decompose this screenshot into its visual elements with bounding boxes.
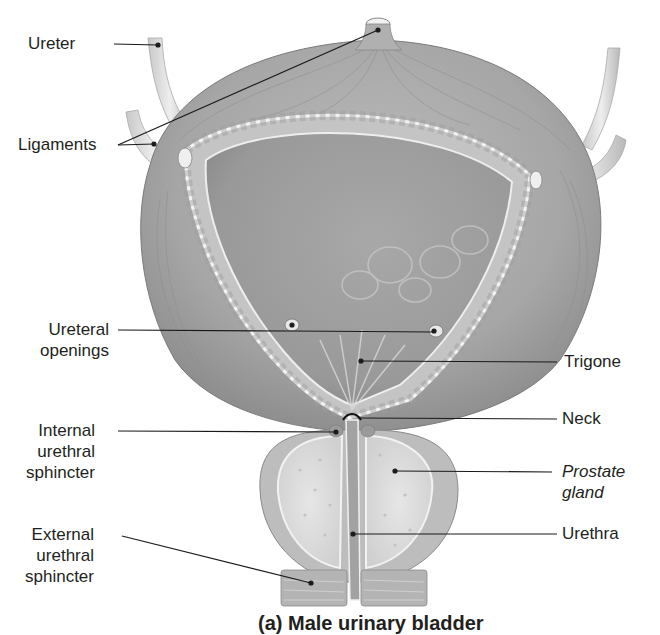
label-ureter: Ureter	[28, 33, 75, 54]
label-ligaments: Ligaments	[18, 134, 96, 155]
label-neck: Neck	[562, 408, 601, 429]
label-line: Internal	[26, 420, 95, 441]
label-trigone: Trigone	[564, 351, 621, 372]
figure-caption: (a) Male urinary bladder	[258, 612, 484, 635]
label-urethra: Urethra	[562, 523, 619, 544]
label-line: gland	[562, 482, 625, 503]
label-prostate-gland: Prostate gland	[562, 461, 625, 503]
label-line: Prostate	[562, 461, 625, 482]
label-line: urethral	[26, 441, 95, 462]
label-line: sphincter	[25, 566, 94, 587]
label-line: urethral	[25, 545, 94, 566]
label-ureteral-openings: Ureteral openings	[40, 319, 109, 361]
label-external-urethral-sphincter: External urethral sphincter	[25, 524, 94, 587]
label-line: openings	[40, 340, 109, 361]
label-line: External	[25, 524, 94, 545]
label-internal-urethral-sphincter: Internal urethral sphincter	[26, 420, 95, 483]
label-line: sphincter	[26, 462, 95, 483]
label-line: Ureteral	[40, 319, 109, 340]
